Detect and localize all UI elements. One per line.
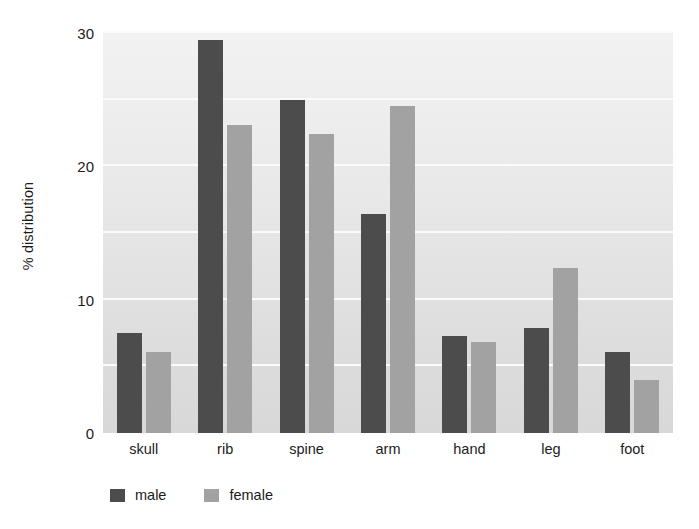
legend-label: female	[229, 487, 273, 503]
y-axis-tick-label: 0	[54, 426, 94, 441]
bar-leg-female	[553, 268, 578, 433]
bar-chart: % distribution 0102030 skullribspinearmh…	[0, 0, 699, 529]
y-axis-tick-labels: 0102030	[50, 0, 94, 529]
bar-foot-female	[634, 380, 659, 433]
bars-layer	[103, 33, 673, 433]
y-axis-title: % distribution	[20, 166, 36, 286]
chart-legend: malefemale	[110, 487, 273, 503]
y-axis-tick-label: 30	[54, 26, 94, 41]
legend-swatch-male-icon	[110, 489, 125, 502]
legend-item-female[interactable]: female	[204, 487, 273, 503]
bar-spine-male	[280, 100, 305, 433]
bar-arm-female	[390, 106, 415, 433]
legend-item-male[interactable]: male	[110, 487, 166, 503]
x-axis-tick-label: spine	[289, 441, 324, 457]
bar-foot-male	[605, 352, 630, 433]
plot-area	[103, 33, 673, 433]
legend-swatch-female-icon	[204, 489, 219, 502]
bar-hand-female	[471, 342, 496, 433]
bar-hand-male	[442, 336, 467, 433]
bar-leg-male	[524, 328, 549, 433]
x-axis-tick-label: arm	[376, 441, 401, 457]
y-axis-tick-label: 10	[54, 292, 94, 307]
x-axis-tick-label: foot	[620, 441, 644, 457]
bar-rib-female	[227, 125, 252, 433]
bar-rib-male	[198, 40, 223, 433]
bar-arm-male	[361, 214, 386, 433]
legend-label: male	[135, 487, 166, 503]
bar-skull-female	[146, 352, 171, 433]
x-axis-tick-label: rib	[217, 441, 233, 457]
bar-skull-male	[117, 333, 142, 433]
x-axis-tick-labels: skullribspinearmhandlegfoot	[103, 441, 673, 467]
x-axis-tick-label: hand	[453, 441, 485, 457]
x-axis-tick-label: leg	[541, 441, 560, 457]
y-axis-tick-label: 20	[54, 159, 94, 174]
x-axis-tick-label: skull	[129, 441, 158, 457]
bar-spine-female	[309, 134, 334, 433]
